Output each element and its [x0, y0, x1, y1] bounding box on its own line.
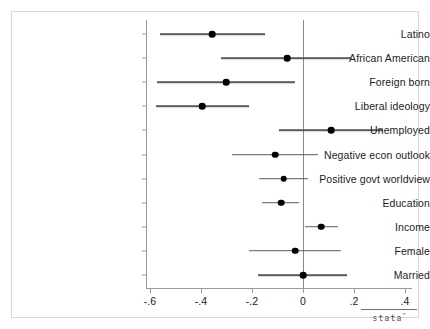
stata-wordmark-label: stata — [372, 314, 402, 323]
stata-wordmark-text: stata™ — [361, 311, 417, 323]
x-axis-tick — [405, 289, 406, 293]
y-axis-category-label: Unemployed — [292, 125, 430, 136]
estimate-point-marker — [281, 175, 288, 182]
x-axis-tick-label: .4 — [401, 295, 410, 307]
stata-rule-divider — [361, 309, 417, 310]
y-axis-category-label: Latino — [292, 29, 430, 40]
y-axis-category-label: Education — [292, 197, 430, 208]
x-axis-tick — [201, 289, 202, 293]
y-axis-tick — [142, 58, 146, 59]
x-axis-tick-label: 0 — [300, 295, 306, 307]
y-axis-category-label: Positive govt worldview — [292, 173, 430, 184]
x-axis-tick — [150, 289, 151, 293]
x-axis-tick-label: -.6 — [144, 295, 156, 307]
x-axis-tick — [252, 289, 253, 293]
y-axis-tick — [142, 275, 146, 276]
y-axis-category-label: Liberal ideology — [292, 101, 430, 112]
estimate-point-marker — [223, 79, 230, 86]
stata-watermark: stata™ — [361, 309, 417, 323]
y-axis-category-label: Income — [292, 221, 430, 232]
x-axis-tick-label: .2 — [350, 295, 359, 307]
y-axis-line — [146, 20, 147, 288]
x-axis-tick — [303, 289, 304, 293]
estimate-point-marker — [209, 31, 216, 38]
y-axis-tick — [142, 154, 146, 155]
y-axis-tick — [142, 82, 146, 83]
y-axis-tick — [142, 106, 146, 107]
x-axis-tick-label: -.4 — [195, 295, 207, 307]
x-axis-line — [146, 288, 412, 289]
y-axis-category-label: Negative econ outlook — [292, 149, 430, 160]
estimate-point-marker — [284, 55, 291, 62]
y-axis-tick — [142, 250, 146, 251]
y-axis-category-label: African American — [292, 53, 430, 64]
y-axis-tick — [142, 178, 146, 179]
y-axis-tick — [142, 34, 146, 35]
y-axis-tick — [142, 202, 146, 203]
estimate-point-marker — [278, 199, 285, 206]
y-axis-tick — [142, 226, 146, 227]
y-axis-category-label: Married — [292, 270, 430, 281]
x-axis-tick-label: -.2 — [246, 295, 258, 307]
y-axis-category-label: Female — [292, 245, 430, 256]
plot-area: LatinoAfrican AmericanForeign bornLibera… — [0, 0, 430, 329]
y-axis-category-label: Foreign born — [292, 77, 430, 88]
y-axis-tick — [142, 130, 146, 131]
x-axis-tick — [354, 289, 355, 293]
coefficient-plot-figure: LatinoAfrican AmericanForeign bornLibera… — [0, 0, 430, 329]
estimate-point-marker — [272, 151, 279, 158]
estimate-point-marker — [199, 103, 206, 110]
stata-trademark-symbol: ™ — [403, 312, 406, 318]
